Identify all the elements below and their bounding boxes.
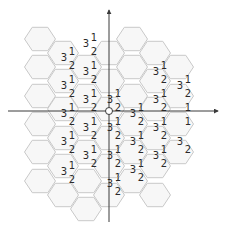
vertex-label-1: 1 <box>69 46 75 57</box>
vertex-label-2: 2 <box>69 116 75 127</box>
vertex-label-2: 2 <box>161 130 167 141</box>
vertex-label-3: 3 <box>83 150 89 161</box>
vertex-label-3: 3 <box>107 150 113 161</box>
hexagon-grid-diagram: 3123123123123123123123123123123123123123… <box>0 0 227 231</box>
vertex-label-3: 3 <box>107 94 113 105</box>
vertex-label-3: 3 <box>61 52 67 63</box>
vertex-label-2: 2 <box>115 130 121 141</box>
vertex-label-3: 3 <box>130 164 136 175</box>
vertex-label-1: 1 <box>138 158 144 169</box>
vertex-label-1: 1 <box>161 144 167 155</box>
vertex-label-3: 3 <box>153 94 159 105</box>
vertex-label-2: 2 <box>91 74 97 85</box>
vertex-label-2: 2 <box>91 130 97 141</box>
vertex-label-3: 3 <box>107 122 113 133</box>
vertex-label-3: 3 <box>177 136 183 147</box>
vertex-label-2: 2 <box>138 144 144 155</box>
vertex-label-1: 1 <box>161 88 167 99</box>
vertex-label-3: 3 <box>177 80 183 91</box>
origin-marker <box>106 108 113 115</box>
vertex-label-2: 2 <box>185 88 191 99</box>
vertex-label-1: 1 <box>138 102 144 113</box>
vertex-label-2: 2 <box>69 144 75 155</box>
vertex-label-1: 1 <box>91 60 97 71</box>
vertex-label-2: 2 <box>161 74 167 85</box>
vertex-label-3: 3 <box>83 66 89 77</box>
vertex-label-1: 1 <box>115 144 121 155</box>
vertex-label-2: 2 <box>161 102 167 113</box>
vertex-label-3: 3 <box>83 38 89 49</box>
vertex-label-2: 2 <box>69 88 75 99</box>
vertex-label-2: 2 <box>91 158 97 169</box>
vertex-label-1: 1 <box>161 116 167 127</box>
vertex-label-1: 1 <box>185 74 191 85</box>
vertex-label-3: 3 <box>61 108 67 119</box>
vertex-label-3: 3 <box>130 108 136 119</box>
vertex-label-2: 2 <box>69 174 75 185</box>
vertex-label-2: 2 <box>161 158 167 169</box>
vertex-label-2: 2 <box>69 60 75 71</box>
vertex-label-1: 1 <box>115 116 121 127</box>
vertex-label-2: 2 <box>91 46 97 57</box>
vertex-label-1: 1 <box>69 160 75 171</box>
vertex-label-1: 1 <box>69 130 75 141</box>
vertex-label-1: 1 <box>91 32 97 43</box>
vertex-label-3: 3 <box>83 94 89 105</box>
vertex-label-2: 2 <box>115 102 121 113</box>
vertex-label-3: 3 <box>153 122 159 133</box>
vertex-label-3: 3 <box>61 80 67 91</box>
vertex-label-1: 1 <box>115 172 121 183</box>
vertex-label-2: 2 <box>115 186 121 197</box>
vertex-label-2: 2 <box>138 172 144 183</box>
vertex-label-1: 1 <box>91 116 97 127</box>
vertex-label-3: 3 <box>107 178 113 189</box>
vertex-label-2: 2 <box>185 144 191 155</box>
vertex-label-1: 1 <box>115 88 121 99</box>
vertex-label-1: 1 <box>185 116 191 127</box>
vertex-label-3: 3 <box>153 150 159 161</box>
vertex-label-1: 1 <box>69 74 75 85</box>
vertex-label-1: 1 <box>138 130 144 141</box>
vertex-label-3: 3 <box>61 136 67 147</box>
vertex-label-1: 1 <box>91 88 97 99</box>
vertex-label-2: 2 <box>115 158 121 169</box>
vertex-label-1: 1 <box>69 102 75 113</box>
vertex-label-3: 3 <box>83 122 89 133</box>
vertex-label-3: 3 <box>130 136 136 147</box>
vertex-label-2: 2 <box>138 116 144 127</box>
vertex-label-2: 2 <box>91 102 97 113</box>
vertex-label-3: 3 <box>61 166 67 177</box>
vertex-label-3: 3 <box>153 66 159 77</box>
vertex-label-1: 1 <box>185 102 191 113</box>
vertex-label-1: 1 <box>161 60 167 71</box>
vertex-label-1: 1 <box>91 144 97 155</box>
